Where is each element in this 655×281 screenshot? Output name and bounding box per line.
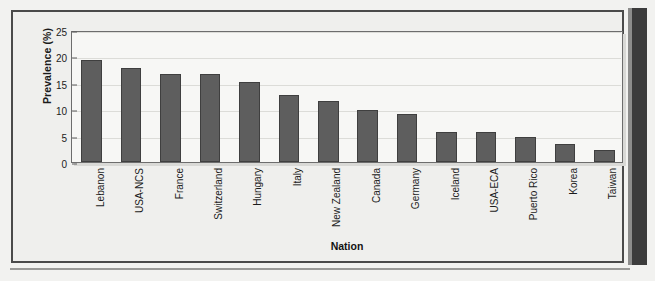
- bar: [515, 137, 536, 162]
- bar-series: [72, 32, 622, 162]
- x-tick-label: Hungary: [252, 168, 263, 268]
- x-axis-title: Nation: [71, 240, 623, 252]
- x-tick-label: Taiwan: [607, 168, 618, 268]
- x-tick-label: Puerto Rico: [528, 168, 539, 268]
- y-tick-label: 15: [56, 79, 67, 90]
- bar: [279, 95, 300, 162]
- x-tick-label: Lebanon: [95, 168, 106, 268]
- bar: [318, 101, 339, 162]
- page-bottom-rule: [10, 268, 630, 270]
- x-tick-label: New Zealand: [331, 168, 342, 268]
- bar: [594, 150, 615, 162]
- scan-edge-band: [632, 8, 647, 265]
- y-axis-title: Prevalence (%): [41, 6, 53, 126]
- x-tick-label: Italy: [292, 168, 303, 268]
- y-tick-mark: [72, 164, 77, 165]
- x-tick-label: USA-ECA: [489, 168, 500, 268]
- bar: [436, 132, 457, 162]
- x-tick-label: Switzerland: [213, 168, 224, 268]
- plot-area: 0510152025: [71, 31, 623, 163]
- x-tick-label: Germany: [410, 168, 421, 268]
- y-tick-label: 20: [56, 53, 67, 64]
- y-tick-label: 10: [56, 106, 67, 117]
- x-tick-label: Canada: [371, 168, 382, 268]
- bar: [239, 82, 260, 162]
- y-tick-label: 5: [61, 132, 67, 143]
- x-tick-label: Iceland: [450, 168, 461, 268]
- y-tick-label: 25: [56, 27, 67, 38]
- bar: [476, 132, 497, 162]
- figure-frame: Prevalence (%) 0510152025 LebanonUSA-NCS…: [11, 10, 624, 263]
- y-tick-label: 0: [61, 159, 67, 170]
- bar: [397, 114, 418, 162]
- x-tick-label: France: [174, 168, 185, 268]
- bar: [160, 74, 181, 162]
- bar: [81, 60, 102, 162]
- bar: [555, 144, 576, 162]
- x-tick-label: USA-NCS: [134, 168, 145, 268]
- figure-screenshot: Prevalence (%) 0510152025 LebanonUSA-NCS…: [0, 0, 655, 281]
- x-tick-label: Korea: [568, 168, 579, 268]
- bar: [200, 74, 221, 162]
- bar: [121, 68, 142, 162]
- bar: [357, 110, 378, 162]
